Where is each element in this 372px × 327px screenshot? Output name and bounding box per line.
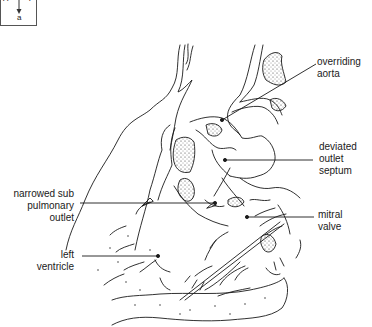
label-deviated-outlet-septum: deviated outlet septum bbox=[319, 141, 357, 177]
label-mitral-valve: mitral valve bbox=[318, 209, 342, 233]
label-line: mitral bbox=[318, 209, 342, 221]
label-line: overriding bbox=[317, 56, 361, 68]
label-line: deviated bbox=[319, 141, 357, 153]
label-line: outlet bbox=[0, 212, 74, 224]
label-overriding-aorta: overriding aorta bbox=[317, 56, 361, 80]
label-left-ventricle: left ventricle bbox=[0, 249, 74, 273]
label-line: left bbox=[0, 249, 74, 261]
label-line: valve bbox=[318, 221, 342, 233]
label-line: aorta bbox=[317, 68, 361, 80]
heart-section-drawing bbox=[0, 0, 372, 327]
label-line: narrowed sub bbox=[0, 188, 74, 200]
label-narrowed-sub-pulmonary-outlet: narrowed sub pulmonary outlet bbox=[0, 188, 74, 224]
label-line: pulmonary bbox=[0, 200, 74, 212]
label-line: ventricle bbox=[0, 261, 74, 273]
label-line: outlet bbox=[319, 153, 357, 165]
label-line: septum bbox=[319, 165, 357, 177]
